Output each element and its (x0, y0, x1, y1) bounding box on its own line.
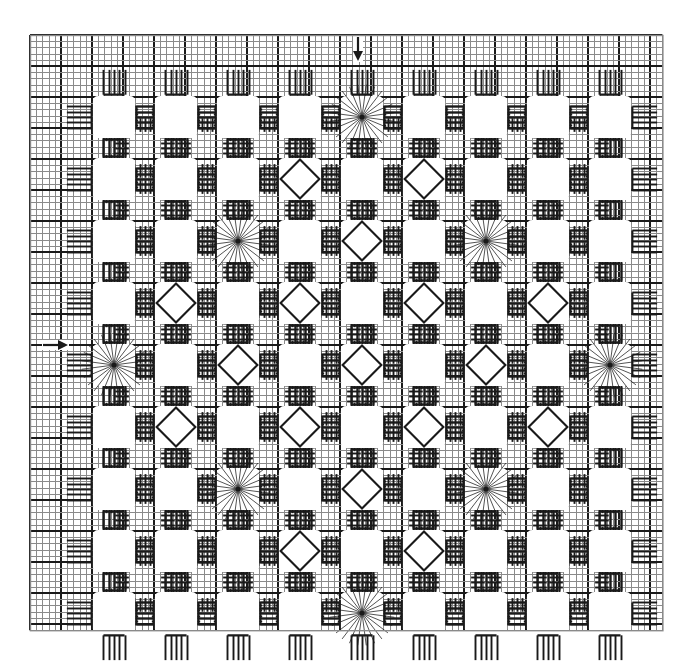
hardanger-chart-canvas (0, 0, 692, 662)
chart-page (0, 0, 692, 662)
